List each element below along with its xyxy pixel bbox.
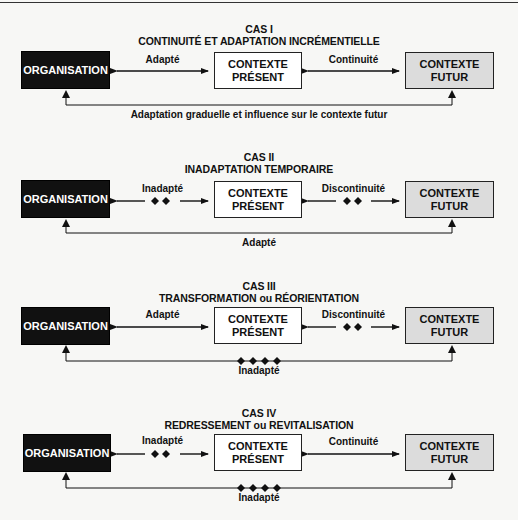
present-label-1: CONTEXTE: [228, 187, 288, 199]
diamond-icon: [354, 197, 362, 205]
feedback-arrow-up-left-icon: [62, 90, 70, 98]
feedback-arrow-up-left-icon: [62, 219, 70, 227]
present-label-1: CONTEXTE: [228, 58, 288, 70]
present-label-1: CONTEXTE: [228, 440, 288, 452]
organisation-label: ORGANISATION: [23, 193, 108, 206]
diamond-icon: [162, 197, 170, 205]
contexte-futur-box: CONTEXTEFUTUR: [405, 181, 494, 218]
feedback-label: Inadapté: [0, 365, 518, 377]
contexte-futur-box: CONTEXTEFUTUR: [405, 52, 494, 89]
present-label-2: PRÉSENT: [232, 200, 284, 212]
diamond-icon: [343, 323, 351, 331]
futur-label-2: FUTUR: [431, 200, 468, 212]
right-link-label: Discontinuité: [308, 183, 399, 195]
contexte-present-box: CONTEXTEPRÉSENT: [214, 434, 302, 471]
feedback-arrow-up-left-icon: [62, 345, 70, 353]
diamond-icon: [249, 357, 257, 365]
diamond-icon: [151, 450, 159, 458]
contexte-futur-box: CONTEXTEFUTUR: [405, 307, 494, 344]
feedback-arrow-up-left-icon: [62, 472, 70, 480]
contexte-present-box: CONTEXTEPRÉSENT: [214, 307, 302, 344]
case-1: CAS I CONTINUITÉ ET ADAPTATION INCRÉMENT…: [0, 21, 518, 149]
feedback-arrow-up-right-icon: [448, 90, 456, 98]
diamond-icon: [162, 450, 170, 458]
left-link-label: Inadapté: [117, 183, 208, 195]
futur-label-2: FUTUR: [431, 453, 468, 465]
diamond-icon: [343, 197, 351, 205]
feedback-line: [66, 352, 452, 361]
organisation-box: ORGANISATION: [21, 180, 110, 218]
feedback-line: [66, 226, 452, 233]
diamond-icon: [237, 357, 245, 365]
present-label-2: PRÉSENT: [232, 71, 284, 83]
feedback-arrow-up-right-icon: [448, 472, 456, 480]
present-label-2: PRÉSENT: [232, 453, 284, 465]
diamond-icon: [273, 357, 281, 365]
present-label-2: PRÉSENT: [232, 326, 284, 338]
diamond-icon: [237, 484, 245, 492]
organisation-box: ORGANISATION: [21, 51, 110, 89]
organisation-box: ORGANISATION: [21, 307, 110, 345]
case-3: CAS III TRANSFORMATION ou RÉORIENTATION …: [0, 278, 518, 406]
feedback-arrow-up-right-icon: [448, 219, 456, 227]
contexte-present-box: CONTEXTEPRÉSENT: [214, 52, 302, 89]
futur-label-1: CONTEXTE: [420, 313, 480, 325]
top-rule: [0, 2, 518, 3]
diamond-icon: [273, 484, 281, 492]
present-label-1: CONTEXTE: [228, 313, 288, 325]
diamond-icon: [354, 323, 362, 331]
feedback-line: [66, 97, 452, 105]
left-link-label: Adapté: [117, 54, 208, 66]
futur-label-1: CONTEXTE: [420, 440, 480, 452]
feedback-label: Inadapté: [0, 492, 518, 504]
diamond-icon: [261, 357, 269, 365]
futur-label-2: FUTUR: [431, 326, 468, 338]
futur-label-2: FUTUR: [431, 71, 468, 83]
feedback-label: Adaptation graduelle et influence sur le…: [0, 109, 518, 121]
case-4: CAS IV REDRESSEMENT ou REVITALISATION OR…: [0, 405, 518, 520]
left-link-label: Adapté: [117, 309, 208, 321]
diamond-icon: [151, 197, 159, 205]
feedback-label: Adapté: [0, 237, 518, 249]
diamond-icon: [261, 484, 269, 492]
contexte-present-box: CONTEXTEPRÉSENT: [214, 181, 302, 218]
feedback-arrow-up-right-icon: [448, 345, 456, 353]
case-2: CAS II INADAPTATION TEMPORAIRE ORGANISAT…: [0, 149, 518, 277]
right-link-label: Continuité: [308, 54, 399, 66]
organisation-label: ORGANISATION: [23, 64, 108, 77]
feedback-line: [66, 479, 452, 488]
diamond-icon: [249, 484, 257, 492]
left-link-label: Inadapté: [117, 435, 208, 447]
contexte-futur-box: CONTEXTEFUTUR: [405, 434, 494, 471]
futur-label-1: CONTEXTE: [420, 187, 480, 199]
right-link-label: Continuité: [308, 436, 399, 448]
right-link-label: Discontinuité: [308, 309, 399, 321]
futur-label-1: CONTEXTE: [420, 58, 480, 70]
organisation-box: ORGANISATION: [23, 434, 111, 472]
organisation-label: ORGANISATION: [23, 320, 108, 333]
organisation-label: ORGANISATION: [25, 447, 110, 460]
